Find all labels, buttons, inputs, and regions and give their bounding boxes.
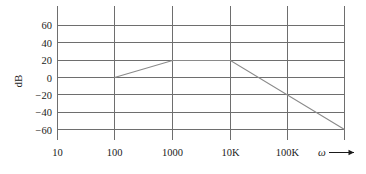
x-tick-label-1000: 1000 (162, 147, 183, 158)
y-tick-label-0: 0 (47, 73, 52, 84)
x-tick-label-10k: 10K (221, 147, 240, 158)
y-tick-label-40: 40 (42, 38, 53, 49)
y-tick-label-neg20: −20 (36, 90, 52, 101)
bode-plot-figure: 60 40 20 0 −20 −40 −60 dB 10 100 1000 10… (0, 0, 366, 174)
x-tick-label-10: 10 (52, 147, 63, 158)
y-tick-label-neg60: −60 (36, 125, 52, 136)
x-tick-label-100k: 100K (276, 147, 300, 158)
x-axis-symbol-omega: ω (318, 146, 326, 158)
y-axis-title: dB (12, 75, 24, 88)
y-tick-label-neg40: −40 (36, 107, 52, 118)
plot-canvas: 60 40 20 0 −20 −40 −60 dB 10 100 1000 10… (0, 0, 366, 174)
x-tick-label-100: 100 (107, 147, 123, 158)
y-tick-label-20: 20 (42, 55, 53, 66)
y-tick-label-60: 60 (42, 20, 53, 31)
